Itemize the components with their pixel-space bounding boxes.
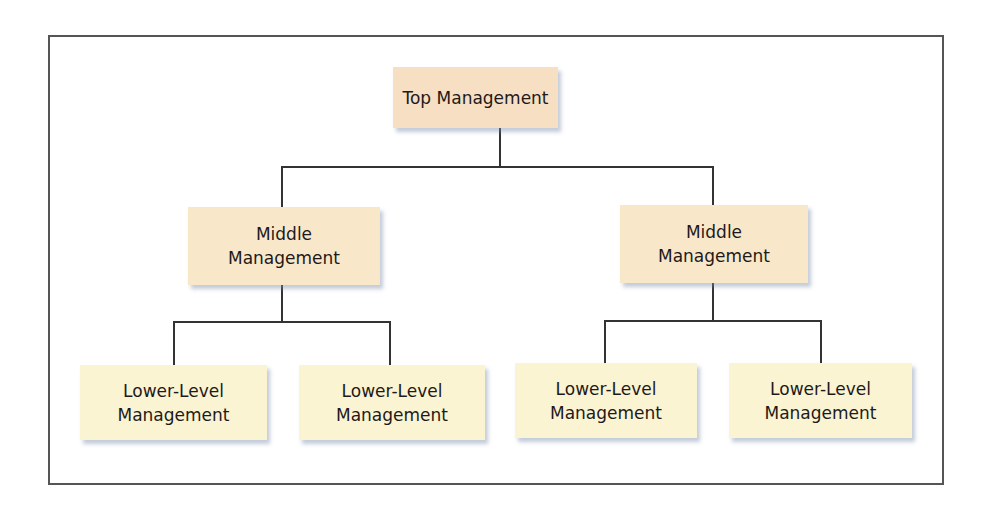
connector-mid-right-vertical bbox=[712, 166, 714, 205]
node-middle-management-left: Middle Management bbox=[188, 207, 380, 285]
connector-top-vertical bbox=[499, 128, 501, 168]
node-label-line1: Lower-Level bbox=[765, 377, 877, 401]
node-middle-management-right: Middle Management bbox=[620, 205, 808, 283]
connector-right-mid-down bbox=[712, 283, 714, 321]
connector-ll2-vertical bbox=[389, 321, 391, 365]
node-label-line1: Middle bbox=[658, 220, 770, 244]
connector-left-mid-down bbox=[281, 285, 283, 322]
node-top-management: Top Management bbox=[393, 67, 558, 128]
node-lower-level-3: Lower-Level Management bbox=[515, 363, 697, 438]
node-label-line1: Lower-Level bbox=[550, 377, 662, 401]
connector-mid-left-vertical bbox=[281, 166, 283, 207]
node-lower-level-4: Lower-Level Management bbox=[729, 363, 912, 438]
node-label-line2: Management bbox=[765, 401, 877, 425]
connector-ll3-vertical bbox=[604, 320, 606, 363]
connector-top-horizontal bbox=[281, 166, 714, 168]
node-label-line2: Management bbox=[118, 403, 230, 427]
node-label-line1: Lower-Level bbox=[336, 379, 448, 403]
node-label-line2: Management bbox=[550, 401, 662, 425]
connector-right-horizontal bbox=[604, 320, 822, 322]
node-label-line2: Management bbox=[336, 403, 448, 427]
node-lower-level-1: Lower-Level Management bbox=[80, 365, 267, 440]
node-label: Top Management bbox=[402, 86, 548, 110]
node-label-line2: Management bbox=[658, 244, 770, 268]
node-lower-level-2: Lower-Level Management bbox=[299, 365, 485, 440]
node-label-line2: Management bbox=[228, 246, 340, 270]
connector-left-horizontal bbox=[173, 321, 391, 323]
connector-ll4-vertical bbox=[820, 320, 822, 363]
node-label-line1: Lower-Level bbox=[118, 379, 230, 403]
connector-ll1-vertical bbox=[173, 321, 175, 365]
node-label-line1: Middle bbox=[228, 222, 340, 246]
